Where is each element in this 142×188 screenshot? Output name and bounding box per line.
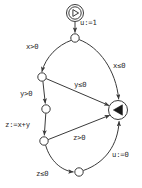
node-n1[interactable]: [71, 34, 79, 42]
edge-label-x-le-0: x≤0: [113, 61, 125, 70]
edge-label-y-gt-0: y>0: [20, 89, 32, 98]
edge-label-u-assign-1: u:=1: [80, 18, 97, 27]
node-n3[interactable]: [42, 105, 50, 113]
edge-label-y-le-0: y≤0: [74, 80, 86, 89]
edge-n5-to-final: [83, 121, 119, 170]
edge-label-x-gt-0: x>0: [26, 42, 38, 51]
diagram-canvas: u:=1 x>0 x≤0 y≤0 y>0 z:=x+y z>0 z≤0 u:=0: [0, 0, 142, 188]
edge-label-u-assign-0: u:=0: [112, 150, 129, 159]
node-n4[interactable]: [40, 137, 48, 145]
automaton-graph: u:=1 x>0 x≤0 y≤0 y>0 z:=x+y z>0 z≤0 u:=0: [0, 0, 142, 188]
edge-n4-to-n5: [46, 145, 74, 172]
edge-n1-to-n2: [42, 40, 71, 72]
edge-label-z-gt-0: z>0: [73, 133, 85, 142]
node-final[interactable]: [109, 101, 128, 120]
edge-n2-to-n3: [43, 81, 45, 103]
edge-label-z-assign-x-plus-y: z:=x+y: [5, 120, 31, 129]
node-n5[interactable]: [75, 168, 83, 176]
edge-n3-to-n4: [44, 113, 46, 135]
node-n2[interactable]: [38, 73, 46, 81]
edge-label-z-le-0: z≤0: [36, 169, 48, 178]
